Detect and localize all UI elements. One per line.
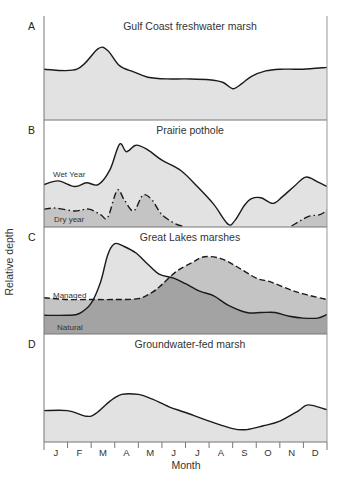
month-label: F — [76, 447, 82, 458]
dry-year-label: Dry year — [54, 215, 85, 224]
panel-fills — [44, 47, 327, 120]
month-label: S — [241, 447, 247, 458]
panel-title: Groundwater-fed marsh — [135, 338, 246, 350]
month-label: D — [312, 447, 319, 458]
month-label: N — [288, 447, 295, 458]
panel-letter: C — [28, 231, 36, 243]
panel-fills — [44, 243, 327, 334]
panel-fills — [44, 394, 327, 442]
month-label: M — [146, 447, 154, 458]
month-label: M — [99, 447, 107, 458]
month-label: J — [53, 447, 58, 458]
panel-a: AGulf Coast freshwater marsh — [28, 16, 327, 120]
panel-c: CGreat Lakes marshes — [28, 227, 327, 334]
month-label: A — [123, 447, 130, 458]
panel-letter: D — [28, 338, 36, 350]
panel-title: Gulf Coast freshwater marsh — [123, 20, 257, 32]
x-axis: JFMAMJJASOND — [44, 442, 327, 458]
month-label: J — [171, 447, 176, 458]
panel-letter: B — [28, 124, 35, 136]
month-label: O — [264, 447, 271, 458]
panel-d: DGroundwater-fed marsh — [28, 334, 327, 442]
depth-fill — [44, 47, 327, 120]
x-axis-label: Month — [171, 459, 200, 471]
y-axis-label: Relative depth — [3, 228, 15, 295]
month-label: A — [218, 447, 225, 458]
month-label: J — [195, 447, 200, 458]
panel-fills — [44, 144, 327, 227]
managed-label: Managed — [53, 291, 86, 300]
panel-letter: A — [28, 20, 35, 32]
depth-fill — [44, 394, 327, 442]
natural-label: Natural — [57, 323, 83, 332]
panel-title: Prairie pothole — [156, 124, 224, 136]
wet-year-label: Wet Year — [53, 170, 86, 179]
figure: AGulf Coast freshwater marshBPrairie pot… — [0, 0, 342, 477]
panel-title: Great Lakes marshes — [140, 231, 240, 243]
